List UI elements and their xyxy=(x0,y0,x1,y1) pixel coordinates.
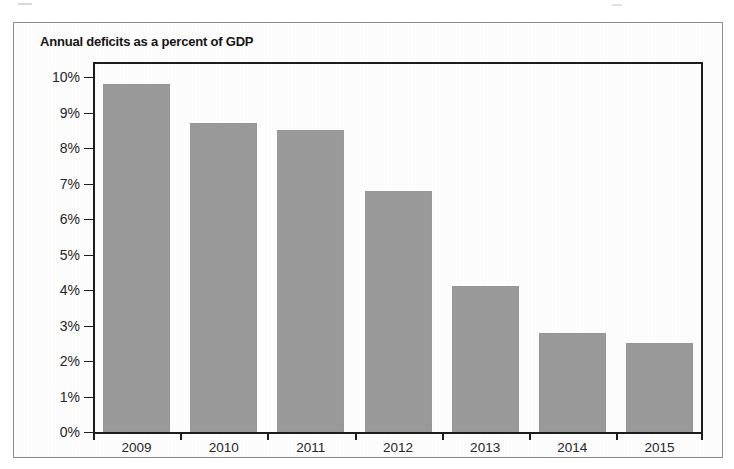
x-axis-tick xyxy=(616,434,618,440)
y-axis-tick-label: 4% xyxy=(18,282,80,298)
x-axis-tick xyxy=(529,434,531,440)
y-axis-tick xyxy=(84,77,93,78)
x-axis-tick xyxy=(442,434,444,440)
y-axis-tick xyxy=(84,432,93,433)
x-axis-tick-label-2011: 2011 xyxy=(296,440,325,455)
x-axis-baseline xyxy=(93,432,703,434)
x-axis-tick-label-2009: 2009 xyxy=(122,440,152,455)
x-axis-tick xyxy=(355,434,357,440)
x-axis-tick xyxy=(93,434,95,440)
y-axis-tick xyxy=(84,219,93,220)
y-axis-tick-label: 6% xyxy=(18,211,80,227)
y-axis-tick-label: 10% xyxy=(18,69,80,85)
bar-2011[interactable] xyxy=(277,130,344,432)
y-axis-tick-label: 7% xyxy=(18,176,80,192)
bar-2014[interactable] xyxy=(539,333,606,432)
y-axis-tick-label: 3% xyxy=(18,318,80,334)
x-axis-tick xyxy=(180,434,182,440)
x-axis-tick-label-2010: 2010 xyxy=(209,440,239,455)
y-axis-tick-label: 9% xyxy=(18,105,80,121)
bar-2015[interactable] xyxy=(626,343,693,432)
x-axis-tick-label-2014: 2014 xyxy=(557,440,587,455)
y-axis-tick-label: 0% xyxy=(18,424,80,440)
y-axis-label-group: 10%9%8%7%6%5%4%3%2%1%0% xyxy=(14,23,80,459)
y-axis-tick-label: 1% xyxy=(18,389,80,405)
scan-edge-artifact xyxy=(0,0,734,10)
y-axis-tick xyxy=(84,326,93,327)
y-axis-tick xyxy=(84,184,93,185)
x-axis-tick-label-2015: 2015 xyxy=(644,440,674,455)
y-axis-tick xyxy=(84,255,93,256)
bars-layer xyxy=(93,62,703,432)
bar-2010[interactable] xyxy=(190,123,257,432)
y-axis-tick xyxy=(84,361,93,362)
bar-2013[interactable] xyxy=(452,286,519,432)
y-axis-tick xyxy=(84,113,93,114)
y-axis-tick xyxy=(84,290,93,291)
bar-2009[interactable] xyxy=(103,84,170,432)
x-axis-tick-label-2012: 2012 xyxy=(383,440,413,455)
y-axis-tick-label: 5% xyxy=(18,247,80,263)
bar-2012[interactable] xyxy=(365,191,432,432)
y-axis-tick xyxy=(84,148,93,149)
y-axis-tick-label: 2% xyxy=(18,353,80,369)
x-axis-end-tick xyxy=(701,434,703,440)
y-axis-tick-label: 8% xyxy=(18,140,80,156)
x-axis-tick xyxy=(267,434,269,440)
y-axis-tick xyxy=(84,397,93,398)
figure-container: Annual deficits as a percent of GDP 10%9… xyxy=(13,22,723,458)
x-axis-tick-label-2013: 2013 xyxy=(470,440,500,455)
